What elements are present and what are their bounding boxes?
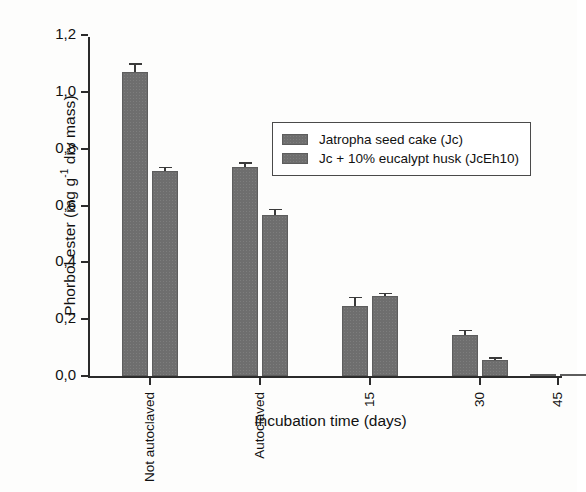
y-axis-title-superscript: -1 <box>59 169 70 178</box>
error-bar-cap <box>239 162 252 164</box>
y-axis-title-suffix: dry mass) <box>61 95 78 168</box>
y-axis-tick: 1,2 <box>81 34 88 36</box>
y-axis-tick: 0,6 <box>81 205 88 207</box>
x-axis-tick: 30 <box>479 378 481 385</box>
y-axis-tick-label: 0,2 <box>55 309 76 326</box>
bar <box>232 167 258 376</box>
legend-swatch-jc <box>282 134 308 145</box>
error-bar <box>384 294 386 296</box>
error-bar <box>464 331 466 334</box>
y-axis-line <box>88 37 90 378</box>
error-bar <box>244 164 246 167</box>
bar <box>372 296 398 376</box>
error-bar <box>494 359 496 360</box>
legend-item: Jc + 10% eucalypt husk (JcEh10) <box>282 149 519 168</box>
bar <box>560 374 586 376</box>
error-bar-cap <box>459 330 472 332</box>
plot-area: 0,00,20,40,60,81,01,2 Not autoclavedAuto… <box>88 37 562 378</box>
x-axis-tick: 15 <box>369 378 371 385</box>
error-bar-cap <box>489 357 502 359</box>
error-bar-cap <box>269 209 282 211</box>
y-axis-tick-label: 0,6 <box>55 196 76 213</box>
legend-label-jceh10: Jc + 10% eucalypt husk (JcEh10) <box>319 151 519 166</box>
y-axis-tick-label: 1,0 <box>55 82 76 99</box>
error-bar <box>164 168 166 171</box>
y-axis-tick: 0,4 <box>81 261 88 263</box>
x-axis-tick-label: Not autoclaved <box>142 392 157 482</box>
bar <box>482 360 508 376</box>
legend-item: Jatropha seed cake (Jc) <box>282 130 519 149</box>
x-axis-tick-label: 15 <box>362 392 377 407</box>
x-axis-tick: Not autoclaved <box>149 378 151 385</box>
error-bar-cap <box>379 293 392 295</box>
error-bar-cap <box>349 297 362 299</box>
bar <box>122 72 148 376</box>
x-axis-tick: Autoclaved <box>259 378 261 385</box>
y-axis-tick-label: 0,8 <box>55 139 76 156</box>
error-bar <box>274 210 276 215</box>
chart-legend: Jatropha seed cake (Jc) Jc + 10% eucalyp… <box>272 122 531 176</box>
legend-label-jc: Jatropha seed cake (Jc) <box>319 132 463 147</box>
y-axis-tick: 0,0 <box>81 375 88 377</box>
error-bar <box>134 65 136 72</box>
error-bar-cap <box>159 167 172 169</box>
x-axis-tick: 45 <box>557 378 559 385</box>
x-axis-tick-label: 45 <box>550 392 565 407</box>
y-axis-tick-label: 1,2 <box>55 25 76 42</box>
error-bar-cap <box>129 63 142 65</box>
y-axis-tick: 0,2 <box>81 318 88 320</box>
y-axis-tick-label: 0,4 <box>55 252 76 269</box>
y-axis-tick: 1,0 <box>81 91 88 93</box>
x-axis-title: Incubation time (days) <box>0 412 577 430</box>
y-axis-tick: 0,8 <box>81 148 88 150</box>
x-axis-title-text: Incubation time (days) <box>170 412 407 429</box>
legend-swatch-jceh10 <box>282 153 308 164</box>
bar <box>342 306 368 376</box>
bar <box>530 374 556 376</box>
bar <box>262 215 288 376</box>
x-axis-tick-label: 30 <box>472 392 487 407</box>
bar <box>152 171 178 376</box>
x-axis-line <box>88 376 562 378</box>
bar <box>452 335 478 376</box>
error-bar <box>354 298 356 306</box>
y-axis-tick-label: 0,0 <box>55 366 76 383</box>
